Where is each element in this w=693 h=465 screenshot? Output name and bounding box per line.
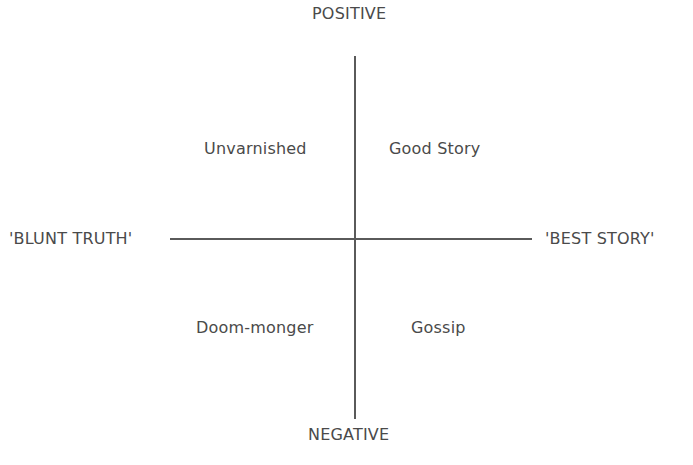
axis-label-positive: POSITIVE	[312, 6, 386, 22]
horizontal-axis-line	[170, 238, 532, 240]
quadrant-label-doom-monger: Doom-monger	[196, 320, 314, 336]
axis-label-best-story: 'BEST STORY'	[545, 231, 655, 247]
quadrant-label-unvarnished: Unvarnished	[204, 141, 307, 157]
axis-label-negative: NEGATIVE	[308, 427, 389, 443]
quadrant-label-good-story: Good Story	[389, 141, 480, 157]
axis-label-blunt-truth: 'BLUNT TRUTH'	[9, 231, 132, 247]
vertical-axis-line	[354, 56, 356, 419]
quadrant-label-gossip: Gossip	[411, 320, 466, 336]
